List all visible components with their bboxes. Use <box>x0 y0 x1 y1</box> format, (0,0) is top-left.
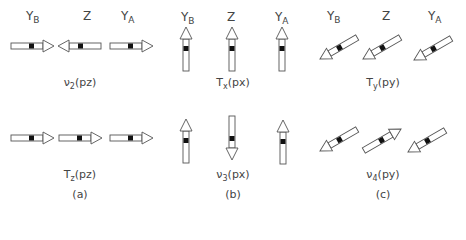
arrow-b-tx-ya <box>276 27 288 71</box>
panel-label-a: (a) <box>72 188 87 201</box>
arrow-b-nu3-yb <box>180 119 192 163</box>
arrow-b-nu3-z <box>226 116 238 160</box>
arrow-c-nu4-ya <box>405 125 448 157</box>
panel-label-c: (c) <box>376 188 391 201</box>
mode-caption-b-tx: Tx(px) <box>216 76 250 91</box>
panel-label-b: (b) <box>225 188 241 201</box>
arrow-b-tx-z <box>226 27 238 71</box>
mode-caption-c-ty: Ty(py) <box>366 76 400 91</box>
arrow-a-nu2-z <box>58 40 101 52</box>
mode-caption-a-tz: Tz(pz) <box>64 168 96 183</box>
arrow-a-nu2-yb <box>11 40 54 52</box>
arrow-c-ty-z <box>360 32 403 64</box>
arrow-a-tz-yb <box>11 132 54 144</box>
arrow-c-nu4-yb <box>317 124 360 156</box>
arrow-a-tz-z <box>59 132 102 144</box>
arrow-b-tx-yb <box>180 27 192 71</box>
arrow-c-ty-ya <box>411 33 454 65</box>
mode-caption-b-nu3: ν3(px) <box>216 168 249 183</box>
arrow-a-nu2-ya <box>110 40 153 52</box>
arrow-b-nu3-ya <box>277 120 289 164</box>
arrow-a-tz-ya <box>110 132 153 144</box>
arrow-c-nu4-z <box>361 124 404 156</box>
mode-caption-a-nu2: ν2(pz) <box>64 76 97 91</box>
arrow-c-ty-yb <box>317 32 360 64</box>
mode-caption-c-nu4: ν4(py) <box>366 168 399 183</box>
